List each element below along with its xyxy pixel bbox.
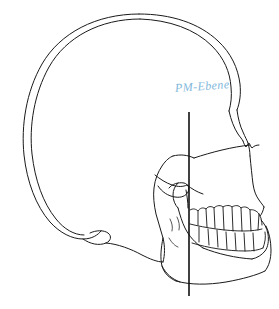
frontal-bone-inner-path — [140, 19, 231, 111]
frontal-bone-outer-path — [139, 14, 240, 110]
mandibular-tooth-sep-5 — [235, 233, 236, 250]
maxillary-tooth-sep-2 — [206, 209, 207, 227]
nasal-aperture-path — [243, 141, 259, 148]
maxilla-anterior-path — [250, 156, 264, 207]
maxilla-alveolar-path — [260, 207, 264, 216]
gonial-angle-path — [162, 266, 180, 282]
mandibular-tooth-sep-4 — [226, 232, 227, 249]
maxillary-teeth-group — [190, 206, 262, 232]
cranial-vault-outer-table-path — [23, 14, 139, 239]
hard-palate-path — [194, 145, 250, 158]
maxillary-tooth-sep-8 — [258, 214, 259, 230]
mandible-foramen-marking-path — [169, 238, 178, 247]
maxillary-detail-marking-path — [177, 217, 179, 230]
orbit-rim-path — [173, 155, 194, 158]
nasal-bone-path — [237, 110, 248, 143]
maxillary-tooth-sep-3 — [214, 208, 215, 228]
mandibular-tooth-sep-3 — [217, 230, 218, 247]
occipital-mastoid-group — [83, 231, 163, 262]
temporal-line-path — [154, 156, 173, 262]
mastoid-process-path — [83, 231, 110, 245]
cranial-vault-group — [23, 14, 140, 239]
skull-drawing-svg — [0, 0, 279, 309]
maxillary-tooth-sep-7 — [250, 210, 251, 231]
mandibular-teeth-base-path — [192, 243, 263, 251]
cranial-base-path — [106, 243, 163, 262]
mandibular-tooth-sep-6 — [244, 233, 245, 251]
frontal-bone-group — [139, 14, 240, 111]
maxillary-tooth-sep-6 — [241, 208, 242, 231]
nasal-group — [229, 110, 259, 156]
cranial-vault-inner-table-path — [31, 19, 140, 235]
maxilla-group — [187, 145, 264, 216]
mandible-group — [161, 183, 271, 284]
maxillary-sinus-marking-path — [170, 219, 172, 231]
mandibular-teeth-distal-path — [263, 232, 265, 248]
maxillary-tooth-sep-4 — [223, 207, 224, 230]
maxillary-tooth-sep-5 — [232, 207, 233, 231]
zygomatic-arch-path — [155, 175, 187, 187]
maxillary-teeth-crest-path — [190, 206, 262, 226]
skull-tracing-figure: PM-Ebene — [0, 0, 279, 309]
mandibular-tooth-sep-2 — [208, 229, 209, 245]
mandibular-tooth-sep-7 — [253, 233, 254, 251]
